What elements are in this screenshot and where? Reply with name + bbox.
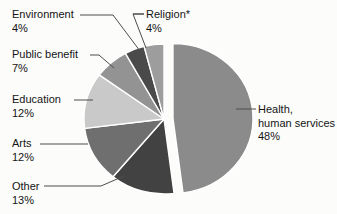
- pie-chart-figure: Health,human services48%Other13%Arts12%E…: [0, 0, 337, 214]
- leader-line-environment: [80, 15, 140, 51]
- leader-line-religion: [133, 14, 146, 48]
- pie-chart: [0, 0, 337, 214]
- leader-line-other: [44, 176, 124, 186]
- pie-slice-health: [173, 43, 253, 192]
